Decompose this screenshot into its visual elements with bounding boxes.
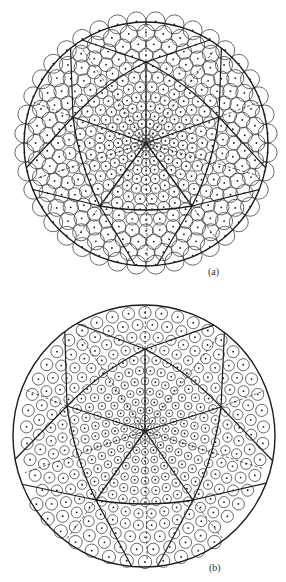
panel-label-a: (a)	[208, 266, 219, 277]
diagram-panel-a: (a)	[0, 0, 286, 290]
circle-packing-diagram-a	[0, 0, 286, 290]
diagram-panel-b: (b)	[0, 290, 286, 582]
panel-label-b: (b)	[209, 562, 221, 573]
circle-packing-diagram-b	[0, 290, 286, 582]
